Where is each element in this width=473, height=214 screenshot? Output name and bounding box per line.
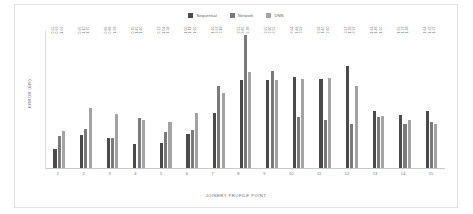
bar-wrapper: 2.80	[271, 31, 274, 168]
bar[interactable]	[217, 86, 220, 168]
bar[interactable]	[248, 72, 251, 168]
bar-value-label: 1.60	[193, 26, 197, 33]
legend-item-network[interactable]: Network	[230, 13, 254, 18]
bar-wrapper: 1.48	[297, 31, 300, 168]
bar-wrapper: 1.60	[195, 31, 198, 168]
x-tick-label: 12	[345, 171, 349, 176]
legend-item-sequential[interactable]: Sequential	[188, 13, 216, 18]
bar-value-label: 1.48	[374, 26, 378, 33]
bar-group: 0.721.041.34	[160, 31, 172, 168]
chart-legend: Sequential Network DNN	[15, 13, 457, 18]
bar-value-label: 0.88	[108, 26, 112, 33]
bar-wrapper: 0.72	[160, 31, 163, 168]
bar[interactable]	[275, 80, 278, 168]
bar[interactable]	[58, 136, 61, 168]
bar-group: 1.602.372.18	[213, 31, 225, 168]
bar[interactable]	[293, 77, 296, 168]
bar[interactable]	[266, 80, 269, 168]
bar[interactable]	[222, 93, 225, 168]
bar[interactable]	[271, 71, 274, 168]
bar-wrapper: 1.11	[191, 31, 194, 168]
bar-group: 0.550.921.06	[53, 31, 65, 168]
bar-wrapper: 1.34	[168, 31, 171, 168]
bar[interactable]	[355, 86, 358, 168]
legend-item-dnn[interactable]: DNN	[266, 13, 283, 18]
bar-wrapper: 2.78	[248, 31, 251, 168]
bar-wrapper: 2.58	[319, 31, 322, 168]
bar[interactable]	[434, 124, 437, 168]
bar-wrapper: 1.32	[430, 31, 433, 168]
bar-wrapper: 1.45	[138, 31, 141, 168]
bar[interactable]	[115, 114, 118, 169]
bar-wrapper: 0.95	[80, 31, 83, 168]
bar[interactable]	[244, 35, 247, 168]
bar-wrapper: 3.85	[244, 31, 247, 168]
bar[interactable]	[142, 120, 145, 168]
bar-value-label: 2.64	[290, 26, 294, 33]
bar-value-label: 1.64	[423, 26, 427, 33]
bar-wrapper: 1.60	[213, 31, 216, 168]
bar[interactable]	[240, 80, 243, 168]
bar[interactable]	[107, 138, 110, 168]
bar-value-label: 3.85	[241, 26, 245, 33]
bar[interactable]	[408, 120, 411, 168]
bar-value-label: 1.06	[60, 26, 64, 33]
bar-wrapper: 1.64	[373, 31, 376, 168]
bar[interactable]	[430, 122, 433, 168]
bar[interactable]	[213, 113, 216, 168]
bar[interactable]	[319, 79, 322, 168]
bar-wrapper: 0.70	[133, 31, 136, 168]
bar[interactable]	[133, 144, 136, 168]
bar[interactable]	[328, 78, 331, 168]
bar-wrapper: 1.12	[84, 31, 87, 168]
bar[interactable]	[350, 124, 353, 168]
bar-value-label: 1.38	[405, 26, 409, 33]
bar[interactable]	[84, 129, 87, 168]
legend-swatch-dnn	[266, 13, 271, 18]
x-tick-label: 8	[237, 171, 239, 176]
plot-area: 0.550.921.060.951.121.750.860.881.580.70…	[45, 31, 445, 169]
bar[interactable]	[168, 122, 171, 168]
bar[interactable]	[346, 66, 349, 168]
bar-wrapper: 1.28	[350, 31, 353, 168]
bar[interactable]	[53, 149, 56, 168]
bar[interactable]	[160, 143, 163, 168]
bar-group: 1.551.271.38	[399, 31, 411, 168]
bar[interactable]	[186, 134, 189, 169]
bar[interactable]	[399, 115, 402, 168]
bar-wrapper: 1.40	[142, 31, 145, 168]
bar[interactable]	[138, 118, 141, 168]
bar[interactable]	[377, 117, 380, 168]
bar[interactable]	[403, 124, 406, 168]
bar-wrapper: 2.60	[328, 31, 331, 168]
bar[interactable]	[324, 120, 327, 168]
bar-value-label: 2.59	[299, 26, 303, 33]
bar-value-label: 0.92	[55, 26, 59, 33]
bar-wrapper: 1.06	[62, 31, 65, 168]
bar-value-label: 2.60	[326, 26, 330, 33]
bar-value-label: 1.75	[86, 26, 90, 33]
bar[interactable]	[373, 111, 376, 168]
bar[interactable]	[426, 111, 429, 168]
bar[interactable]	[80, 135, 83, 168]
bar-wrapper: 2.37	[217, 31, 220, 168]
bar-wrapper: 0.88	[111, 31, 114, 168]
bar[interactable]	[62, 131, 65, 168]
bar[interactable]	[301, 79, 304, 168]
x-tick-label: 14	[401, 171, 405, 176]
bar[interactable]	[297, 117, 300, 168]
bar[interactable]	[89, 108, 92, 168]
x-tick-label: 15	[429, 171, 433, 176]
x-tick-label: 5	[160, 171, 162, 176]
bar-wrapper: 2.55	[240, 31, 243, 168]
bar[interactable]	[381, 116, 384, 168]
bar[interactable]	[191, 130, 194, 168]
bar[interactable]	[164, 132, 167, 168]
bar-wrapper: 2.55	[275, 31, 278, 168]
bar-wrapper: 2.37	[355, 31, 358, 168]
bar[interactable]	[195, 113, 198, 168]
bar-value-label: 2.55	[272, 26, 276, 33]
bar-wrapper: 2.64	[293, 31, 296, 168]
bar[interactable]	[111, 138, 114, 168]
bar-value-label: 1.50	[379, 26, 383, 33]
